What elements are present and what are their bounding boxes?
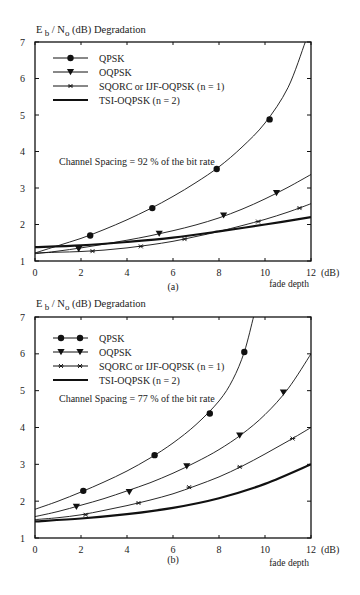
y-axis-label-n: / N [49, 298, 65, 309]
y-tick-label: 5 [20, 385, 25, 396]
legend-marker-sqorc [68, 84, 73, 88]
y-tick-label: 3 [20, 459, 25, 470]
legend-marker-qpsk [67, 55, 73, 61]
x-unit-label: (dB) [321, 544, 339, 556]
data-point-oqpsk [183, 463, 190, 469]
channel-spacing-annotation: Channel Spacing = 92 % of the bit rate [59, 156, 215, 167]
data-point-sqorc [290, 437, 295, 441]
x-tick-label: 0 [33, 544, 38, 555]
x-tick-label: 2 [79, 267, 84, 278]
legend-label-qpsk: QPSK [99, 53, 125, 64]
y-axis-label: E b / No (dB) Degradation [36, 298, 147, 312]
chart-panel-b: E b / No (dB) Degradation024681012(dB)fa… [20, 298, 339, 568]
legend-marker-sqorc [58, 364, 63, 368]
data-point-sqorc [182, 237, 187, 241]
data-point-qpsk [207, 410, 213, 416]
legend-label-oqpsk: OQPSK [99, 347, 133, 358]
x-axis-label: fade depth [269, 279, 309, 289]
data-point-sqorc [237, 465, 242, 469]
x-tick-label: 0 [33, 267, 38, 278]
legend-label-tsi-oqpsk: TSI-OQPSK (n = 2) [99, 95, 180, 107]
x-tick-label: 4 [125, 544, 130, 555]
channel-spacing-annotation: Channel Spacing = 77 % of the bit rate [59, 393, 215, 404]
y-tick-label: 2 [20, 219, 25, 230]
y-tick-label: 3 [20, 183, 25, 194]
y-tick-label: 5 [20, 110, 25, 121]
x-unit-label: (dB) [321, 267, 339, 279]
y-tick-label: 7 [20, 37, 25, 48]
y-axis-label-rest: (dB) Degradation [69, 298, 146, 310]
y-tick-label: 1 [20, 533, 25, 544]
y-axis-label-rest: (dB) Degradation [69, 24, 146, 36]
series-group [35, 42, 311, 254]
series-line-oqpsk [35, 175, 311, 254]
legend-marker-sqorc [77, 364, 82, 368]
y-tick-label: 7 [20, 312, 25, 323]
y-tick-label: 2 [20, 496, 25, 507]
data-point-qpsk [149, 205, 155, 211]
series-group [35, 317, 311, 521]
data-point-sqorc [297, 206, 302, 210]
data-point-qpsk [266, 116, 272, 122]
data-point-sqorc [256, 220, 261, 224]
y-tick-label: 4 [20, 422, 25, 433]
series-line-tsi-oqpsk [35, 217, 311, 247]
legend-marker-qpsk [58, 335, 64, 341]
data-point-oqpsk [273, 190, 280, 196]
x-axis-label: fade depth [269, 558, 309, 568]
legend-label-sqorc: SQORC or IJF-OQPSK (n = 1) [99, 81, 224, 93]
x-tick-label: 10 [260, 267, 270, 278]
data-point-qpsk [241, 349, 247, 355]
legend-label-tsi-oqpsk: TSI-OQPSK (n = 2) [99, 375, 180, 387]
x-tick-label: 4 [125, 267, 130, 278]
x-tick-label: 6 [171, 267, 176, 278]
x-tick-label: 2 [79, 544, 84, 555]
plot-frame [35, 42, 311, 261]
data-point-qpsk [151, 452, 157, 458]
y-axis-label-n: / N [49, 24, 65, 35]
figure: E b / No (dB) Degradation024681012(dB)fa… [0, 0, 360, 595]
y-axis-label: E b / No (dB) Degradation [36, 24, 147, 38]
y-tick-label: 6 [20, 73, 25, 84]
data-point-sqorc [83, 513, 88, 517]
legend-marker-qpsk [77, 335, 83, 341]
data-point-qpsk [80, 488, 86, 494]
legend-label-qpsk: QPSK [99, 333, 125, 344]
x-tick-label: 8 [217, 544, 222, 555]
x-tick-label: 8 [217, 267, 222, 278]
legend: QPSKOQPSKSQORC or IJF-OQPSK (n = 1)TSI-O… [53, 53, 224, 107]
chart-panel-a: E b / No (dB) Degradation024681012(dB)fa… [20, 24, 339, 293]
series-line-qpsk [35, 42, 305, 253]
legend: QPSKOQPSKSQORC or IJF-OQPSK (n = 1)TSI-O… [53, 333, 224, 387]
panel-label: (b) [167, 554, 179, 566]
data-point-sqorc [138, 244, 143, 248]
panel-label: (a) [167, 281, 178, 293]
y-tick-label: 4 [20, 146, 25, 157]
x-tick-label: 10 [260, 544, 270, 555]
y-tick-label: 1 [20, 256, 25, 267]
data-point-sqorc [90, 249, 95, 253]
data-point-qpsk [87, 232, 93, 238]
data-point-oqpsk [126, 489, 133, 495]
x-tick-label: 12 [306, 267, 316, 278]
data-point-sqorc [136, 501, 141, 505]
data-point-oqpsk [280, 390, 287, 396]
legend-label-sqorc: SQORC or IJF-OQPSK (n = 1) [99, 361, 224, 373]
series-line-qpsk [35, 317, 254, 509]
legend-label-oqpsk: OQPSK [99, 67, 133, 78]
x-tick-label: 12 [306, 544, 316, 555]
y-tick-label: 6 [20, 348, 25, 359]
